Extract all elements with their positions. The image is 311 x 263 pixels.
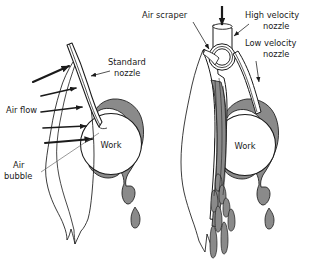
scraper-drip-7 [221, 222, 228, 254]
low-velocity-nozzle-leader [256, 61, 259, 82]
high-velocity-nozzle-leader [234, 24, 249, 36]
label-air-bubble-line1: Air [13, 160, 25, 170]
label-standard-nozzle-line2: nozzle [114, 68, 140, 78]
label-air-scraper: Air scraper [142, 10, 188, 20]
scraper-drip-6 [228, 209, 235, 231]
label-low-velocity-nozzle-line2: nozzle [263, 49, 289, 59]
air-scraper-panel: Air scraper High velocity nozzle Low vel… [142, 6, 299, 258]
standard-nozzle-panel: Standard nozzle Air flow Air bubble Work [4, 43, 146, 244]
scraper-drip-8 [210, 226, 217, 258]
label-standard-nozzle-line1: Standard [108, 57, 146, 67]
air-flow-arrow-3 [41, 107, 82, 112]
diagram-canvas: Standard nozzle Air flow Air bubble Work [0, 0, 311, 263]
air-scraper-leader [193, 22, 209, 49]
label-high-velocity-nozzle-line1: High velocity [245, 10, 299, 20]
label-work-left: Work [100, 140, 121, 150]
technical-diagram: Standard nozzle Air flow Air bubble Work [0, 0, 311, 263]
coolant-droplet-right [265, 208, 274, 229]
label-air-flow: Air flow [6, 105, 37, 115]
label-air-bubble-line2: bubble [4, 171, 32, 181]
label-high-velocity-nozzle-line2: nozzle [263, 21, 289, 31]
label-work-right: Work [234, 141, 255, 151]
standard-nozzle-leader [91, 71, 110, 76]
scraper-drip-5 [215, 206, 222, 232]
coolant-droplet-left [131, 207, 140, 228]
label-low-velocity-nozzle-line1: Low velocity [245, 38, 296, 48]
air-flow-arrow-4 [43, 126, 86, 128]
